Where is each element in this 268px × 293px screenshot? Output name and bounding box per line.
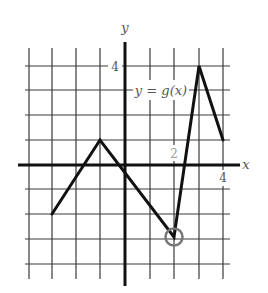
y-axis-label: y [120, 20, 129, 35]
y-tick-label-4: 4 [111, 60, 119, 74]
x-axis-label: x [242, 157, 250, 172]
graph-canvas: y x 4 2 4 y = g(x) [0, 0, 268, 293]
function-label: y = g(x) [134, 83, 187, 98]
x-tick-label-4: 4 [219, 171, 227, 185]
x-tick-label-2: 2 [170, 147, 178, 161]
